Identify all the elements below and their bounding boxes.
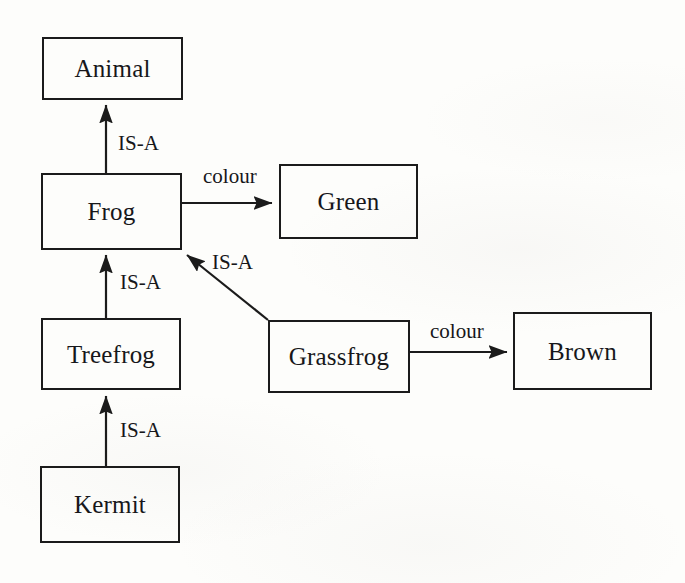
- node-brown[interactable]: Brown: [513, 312, 652, 390]
- node-frog-label: Frog: [87, 199, 135, 224]
- semantic-network-diagram: Animal Frog Green Treefrog Grassfrog Bro…: [0, 0, 685, 583]
- node-green[interactable]: Green: [279, 164, 418, 239]
- node-treefrog[interactable]: Treefrog: [41, 318, 181, 390]
- node-grassfrog-label: Grassfrog: [289, 344, 389, 369]
- node-frog[interactable]: Frog: [41, 173, 182, 250]
- node-treefrog-label: Treefrog: [67, 342, 155, 367]
- node-animal[interactable]: Animal: [42, 37, 183, 100]
- edge-label-frog-colour-green: colour: [203, 166, 257, 187]
- node-green-label: Green: [317, 189, 379, 214]
- node-brown-label: Brown: [548, 339, 617, 364]
- edge-label-grassfrog-isa-frog: IS-A: [212, 252, 253, 273]
- edge-label-kermit-isa-treefrog: IS-A: [120, 420, 161, 441]
- node-kermit[interactable]: Kermit: [40, 466, 180, 543]
- node-kermit-label: Kermit: [74, 492, 146, 517]
- node-grassfrog[interactable]: Grassfrog: [268, 320, 410, 393]
- edge-label-treefrog-isa-frog: IS-A: [120, 272, 161, 293]
- node-animal-label: Animal: [74, 56, 150, 81]
- edge-label-grassfrog-colour-brown: colour: [430, 321, 484, 342]
- edge-label-frog-isa-animal: IS-A: [118, 133, 159, 154]
